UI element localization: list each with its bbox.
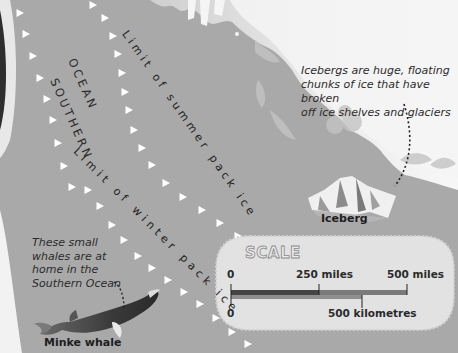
iceberg-caption: Icebergs are huge, floating chunks of ic… (301, 64, 458, 120)
whale-caption-line: These small (32, 236, 121, 250)
whale-caption: These small whales are at home in the So… (32, 236, 121, 290)
whale-caption-line: Southern Ocean (32, 277, 121, 291)
scale-panel: SCALE 0 250 miles 500 miles 0 500 kilome… (215, 234, 455, 332)
scale-miles-500: 500 miles (387, 268, 444, 280)
scale-km-500: 500 kilometres (328, 307, 417, 319)
scale-miles-0: 0 (227, 268, 234, 280)
scale-miles-250: 250 miles (296, 268, 353, 280)
iceberg-label: Iceberg (321, 212, 368, 225)
iceberg-caption-line: chunks of ice that have broken (301, 78, 458, 106)
scale-title: SCALE (245, 244, 301, 262)
minke-whale-label: Minke whale (44, 336, 122, 349)
iceberg-caption-line: off ice shelves and glaciers (301, 106, 458, 120)
scale-km-0: 0 (227, 307, 234, 319)
whale-caption-line: home in the (32, 263, 121, 277)
iceberg-caption-line: Icebergs are huge, floating (301, 64, 458, 78)
whale-caption-line: whales are at (32, 250, 121, 264)
